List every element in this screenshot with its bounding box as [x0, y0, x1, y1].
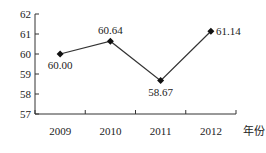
x-tick-label: 2011 — [150, 125, 172, 137]
y-tick-label: 62 — [20, 8, 31, 20]
data-label: 60.00 — [48, 59, 73, 71]
x-tick-label: 2010 — [99, 125, 122, 137]
data-label: 61.14 — [216, 25, 241, 37]
y-tick-label: 61 — [20, 28, 31, 40]
diamond-marker — [57, 51, 64, 58]
y-tick-label: 59 — [20, 68, 32, 80]
data-label: 60.64 — [98, 24, 123, 36]
x-tick-label: 2009 — [49, 125, 72, 137]
y-tick-label: 58 — [20, 88, 32, 100]
data-series: 60.0060.6458.6761.14 — [48, 24, 241, 97]
line-chart: 575859606162 2009201020112012 年份 60.0060… — [0, 0, 266, 153]
y-axis: 575859606162 — [20, 8, 39, 120]
data-label: 58.67 — [148, 86, 173, 98]
y-tick-label: 60 — [20, 48, 32, 60]
y-tick-label: 57 — [20, 108, 32, 120]
x-axis: 2009201020112012 年份 — [35, 110, 265, 137]
x-axis-label: 年份 — [243, 124, 265, 137]
x-tick-label: 2012 — [200, 125, 222, 137]
